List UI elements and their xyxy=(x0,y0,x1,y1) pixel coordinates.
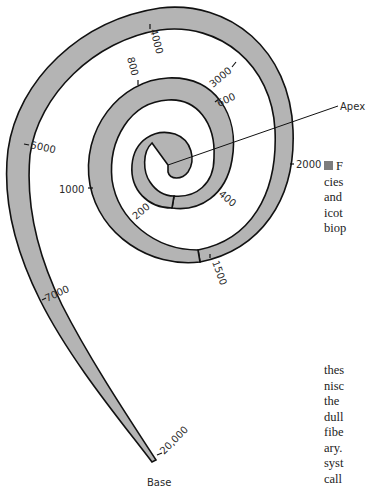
freq-label-20000: 20,000 xyxy=(158,424,191,457)
caption-bullet-square xyxy=(324,161,333,170)
caption-line: biop xyxy=(324,221,346,237)
caption-line: and xyxy=(324,190,346,206)
freq-label-200: 200 xyxy=(130,201,152,222)
body-text-fragment: thes nisc the dull fibe ary. syst call xyxy=(324,363,344,487)
caption-line: icot xyxy=(324,206,346,222)
body-line: ary. xyxy=(324,441,344,457)
base-label: Base xyxy=(147,477,171,488)
cochlea-spiral-diagram: 4000 800 3000 600 2000 5000 1000 200 400… xyxy=(0,0,373,496)
body-line: call xyxy=(324,472,344,488)
body-line: nisc xyxy=(324,379,344,395)
figure-caption-fragment: F cies and icot biop xyxy=(324,159,346,237)
apex-label: Apex xyxy=(340,101,365,112)
freq-label-800: 800 xyxy=(125,56,141,77)
body-line: fibe xyxy=(324,425,344,441)
apex-pointer-line xyxy=(168,106,338,165)
body-line: syst xyxy=(324,456,344,472)
freq-label-4000: 4000 xyxy=(148,28,165,55)
caption-line: F xyxy=(324,159,346,175)
body-line: the xyxy=(324,394,344,410)
freq-label-5000: 5000 xyxy=(30,139,57,155)
freq-label-400: 400 xyxy=(217,188,239,209)
freq-label-600: 600 xyxy=(215,91,237,109)
freq-label-3000: 3000 xyxy=(207,65,234,90)
body-line: dull xyxy=(324,410,344,426)
body-line: thes xyxy=(324,363,344,379)
freq-label-2000: 2000 xyxy=(296,159,321,170)
freq-label-1500: 1500 xyxy=(210,259,229,287)
caption-line: cies xyxy=(324,175,346,191)
freq-label-1000: 1000 xyxy=(59,184,84,195)
basilar-membrane-middle-turn xyxy=(88,78,233,263)
basilar-membrane-outer-turn xyxy=(7,7,294,462)
